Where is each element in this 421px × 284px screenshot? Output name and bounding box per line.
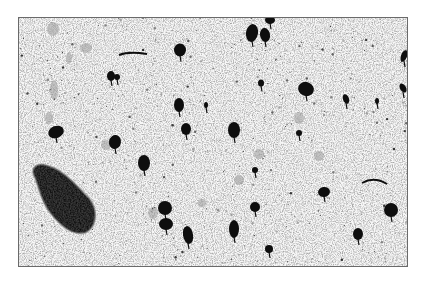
speck	[303, 97, 304, 98]
speck	[308, 137, 309, 138]
speck	[173, 95, 174, 96]
speck	[39, 154, 40, 155]
speck	[217, 209, 219, 211]
speck	[294, 216, 295, 217]
speck	[287, 124, 288, 125]
speck	[213, 68, 214, 69]
speck	[225, 149, 226, 150]
speck	[143, 213, 144, 214]
speck	[308, 125, 309, 126]
speck	[47, 60, 48, 61]
speck	[386, 253, 387, 254]
speck	[392, 116, 393, 117]
speck	[387, 166, 388, 167]
speck	[194, 131, 196, 133]
speck	[182, 39, 183, 40]
speck	[156, 84, 157, 85]
micrograph-image	[18, 17, 408, 267]
stained-neuron	[107, 71, 115, 81]
speck	[377, 194, 378, 195]
speck	[406, 173, 407, 174]
speck	[105, 130, 106, 131]
stained-neuron	[158, 201, 172, 215]
speck	[393, 148, 395, 150]
speck	[233, 216, 234, 217]
speck	[152, 208, 153, 209]
speck	[146, 206, 147, 207]
speck	[361, 214, 362, 215]
speck	[383, 97, 385, 99]
speck	[193, 222, 194, 223]
speck	[317, 194, 318, 195]
speck	[193, 83, 194, 84]
speck	[359, 107, 360, 108]
stained-neuron	[138, 155, 150, 171]
speck	[376, 42, 377, 43]
speck	[34, 141, 35, 142]
speck	[158, 222, 159, 223]
speck	[270, 48, 271, 49]
speck	[276, 106, 277, 107]
speck	[334, 30, 335, 31]
speck	[154, 207, 155, 208]
speck	[94, 103, 95, 104]
speck	[88, 164, 89, 165]
speck	[306, 77, 308, 79]
speck	[372, 45, 374, 47]
speck	[344, 225, 345, 226]
speck	[350, 133, 351, 134]
speck	[361, 40, 362, 41]
speck	[364, 106, 365, 107]
speck	[171, 233, 172, 234]
speck	[317, 45, 318, 46]
speck	[204, 95, 205, 96]
speck	[265, 204, 266, 205]
speck	[390, 195, 391, 196]
speck	[206, 257, 207, 258]
speck	[276, 230, 278, 232]
speck	[297, 222, 299, 224]
speck	[337, 177, 338, 178]
speck	[245, 217, 246, 218]
speck	[170, 20, 171, 21]
speck	[234, 44, 235, 45]
speck	[312, 258, 313, 259]
speck	[146, 89, 148, 91]
speck	[43, 75, 44, 76]
speck	[252, 52, 253, 53]
speck	[20, 48, 21, 49]
speck	[369, 72, 370, 73]
speck	[245, 227, 246, 228]
speck	[159, 137, 160, 138]
speck	[352, 28, 353, 29]
speck	[400, 62, 401, 63]
speck	[185, 224, 186, 225]
speck	[312, 47, 313, 48]
speck	[348, 215, 349, 216]
speck	[150, 127, 151, 128]
speck	[245, 229, 246, 230]
speck	[163, 144, 164, 145]
speck	[346, 222, 347, 223]
speck	[88, 90, 89, 91]
speck	[126, 168, 127, 169]
speck	[349, 77, 350, 78]
speck	[20, 234, 21, 235]
speck	[22, 44, 23, 45]
speck	[372, 111, 374, 113]
speck	[74, 97, 75, 98]
speck	[327, 148, 328, 149]
speck	[231, 259, 232, 260]
speck	[352, 206, 353, 207]
speck	[268, 189, 269, 190]
speck	[330, 118, 331, 119]
speck	[207, 150, 208, 151]
speck	[45, 80, 46, 81]
speck	[51, 30, 53, 32]
speck	[226, 210, 227, 211]
speck	[50, 89, 51, 90]
speck	[239, 166, 240, 167]
speck	[86, 112, 87, 113]
speck	[383, 29, 384, 30]
speck	[122, 26, 123, 27]
